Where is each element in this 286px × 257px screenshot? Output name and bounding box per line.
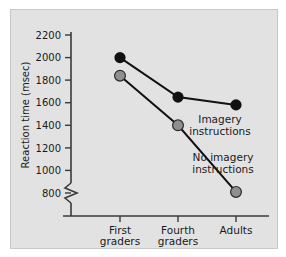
- data-point: [172, 92, 183, 103]
- x-tick-label-first-graders-line2: graders: [100, 235, 140, 247]
- line-chart-svg: 2200 2000 1800 1600 1400 1200 1000 800 R…: [11, 10, 279, 250]
- y-tick-marks: [65, 35, 71, 193]
- data-point: [231, 187, 242, 198]
- y-tick-label: 1000: [36, 165, 61, 176]
- annotation-line2: instructions: [189, 125, 251, 137]
- y-tick-label: 800: [42, 188, 61, 199]
- series-markers-imagery-instructions: [114, 52, 241, 111]
- y-tick-label: 1200: [36, 143, 61, 154]
- data-point: [230, 99, 241, 110]
- annotation-line1: Imagery: [198, 113, 241, 125]
- y-axis-title: Reaction time (msec): [20, 62, 31, 169]
- y-tick-labels: 2200 2000 1800 1600 1400 1200 1000 800: [36, 30, 61, 199]
- data-point: [115, 70, 126, 81]
- y-tick-label: 2000: [36, 52, 61, 63]
- chart-figure: 2200 2000 1800 1600 1400 1200 1000 800 R…: [0, 0, 286, 257]
- x-tick-marks: [120, 216, 236, 222]
- data-point: [114, 52, 125, 63]
- x-tick-label-adults: Adults: [220, 224, 253, 236]
- y-tick-label: 1600: [36, 97, 61, 108]
- annotation-line2: instructions: [192, 163, 254, 175]
- y-tick-label: 2200: [36, 30, 61, 41]
- y-tick-label: 1800: [36, 75, 61, 86]
- annotation-no-imagery-instructions: No imagery instructions: [192, 151, 254, 175]
- annotation-imagery-instructions: Imagery instructions: [189, 113, 251, 137]
- chart-panel: 2200 2000 1800 1600 1400 1200 1000 800 R…: [10, 9, 278, 249]
- data-point: [173, 120, 184, 131]
- annotation-line1: No imagery: [193, 151, 254, 163]
- x-tick-label-fourth-graders-line2: graders: [158, 235, 198, 247]
- y-tick-label: 1400: [36, 120, 61, 131]
- x-tick-labels: First graders Fourth graders Adults: [100, 224, 253, 247]
